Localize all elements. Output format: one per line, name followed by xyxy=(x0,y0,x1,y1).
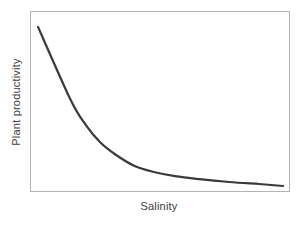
x-axis-label: Salinity xyxy=(140,200,177,212)
y-axis-label: Plant productivity xyxy=(10,58,22,145)
plot-area xyxy=(30,11,290,192)
productivity-curve xyxy=(38,27,283,186)
chart-figure: Plant productivity Salinity xyxy=(0,0,301,226)
productivity-curve-svg xyxy=(31,12,289,191)
